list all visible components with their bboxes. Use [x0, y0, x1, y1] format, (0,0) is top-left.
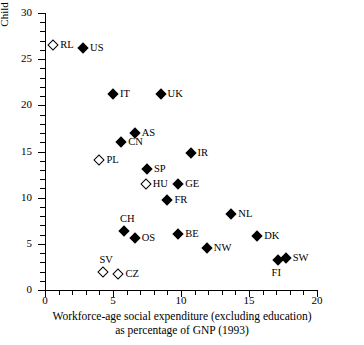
y-tick-label: 15	[12, 146, 32, 157]
data-point-label: FI	[272, 268, 281, 279]
y-tick	[38, 13, 45, 14]
y-tick	[38, 59, 45, 60]
y-tick-label: 20	[12, 99, 32, 110]
y-tick-label: 30	[12, 7, 32, 18]
data-point-label: RL	[60, 40, 73, 51]
x-tick	[72, 291, 73, 295]
x-axis-title-line1: Workforce-age social expenditure (exclud…	[22, 310, 342, 324]
y-axis-title: Child poverty rate (%)	[0, 0, 10, 62]
x-tick	[276, 291, 277, 295]
data-point-label: FR	[174, 195, 187, 206]
plot-area	[45, 13, 317, 290]
x-tick-label: 10	[166, 295, 196, 306]
x-tick-label: 20	[302, 295, 332, 306]
y-tick	[38, 198, 45, 199]
x-tick	[154, 291, 155, 295]
y-tick	[38, 105, 45, 106]
x-tick-label: 0	[30, 295, 60, 306]
data-point-label: OS	[142, 233, 155, 244]
data-point-label: HU	[153, 179, 168, 190]
data-point-label: IR	[198, 148, 209, 159]
data-point-label: IT	[120, 89, 130, 100]
data-point-label: BE	[185, 229, 198, 240]
data-point-label: US	[90, 43, 103, 54]
x-axis-title-line2: as percentage of GNP (1993)	[22, 324, 342, 338]
y-tick-label: 5	[12, 238, 32, 249]
x-tick-label: 15	[234, 295, 264, 306]
y-tick-label: 0	[12, 284, 32, 295]
x-tick	[222, 291, 223, 295]
y-tick-label: 25	[12, 53, 32, 64]
data-point-label: CN	[128, 137, 143, 148]
data-point-label: UK	[168, 89, 183, 100]
x-axis-title: Workforce-age social expenditure (exclud…	[22, 310, 342, 337]
data-point-label: AS	[142, 128, 155, 139]
y-tick	[38, 244, 45, 245]
data-point-label: CZ	[125, 269, 138, 280]
y-tick	[38, 290, 45, 291]
data-point-label: CH	[120, 214, 135, 225]
data-point-label: SP	[154, 164, 166, 175]
y-tick-label: 10	[12, 192, 32, 203]
data-point-label: PL	[106, 155, 118, 166]
scatter-chart: 051015202530 05101520 Child poverty rate…	[0, 0, 364, 345]
data-point-label: SV	[99, 255, 112, 266]
x-tick	[290, 291, 291, 295]
x-tick	[86, 291, 87, 295]
x-tick-label: 5	[98, 295, 128, 306]
data-point-label: NW	[214, 243, 232, 254]
x-tick	[140, 291, 141, 295]
data-point-label: GE	[185, 179, 199, 190]
data-point-label: NL	[238, 209, 252, 220]
x-tick	[208, 291, 209, 295]
data-point-label: DK	[264, 231, 279, 242]
y-tick	[38, 152, 45, 153]
data-point-label: SW	[293, 253, 309, 264]
